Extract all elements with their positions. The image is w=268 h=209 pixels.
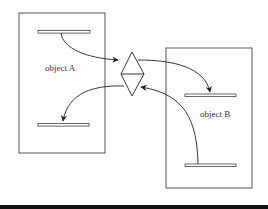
object-a-label: object A [45,63,76,73]
object-b-label: object B [200,109,230,119]
object-a[interactable]: object A [19,13,105,153]
object-b[interactable]: object B [166,48,252,188]
diamond-connector[interactable] [121,52,144,96]
object-b-bottom-slot[interactable] [185,164,236,167]
object-a-bottom-slot[interactable] [38,124,89,127]
bottom-rule [0,205,268,209]
object-b-top-slot[interactable] [185,94,236,97]
diagram-canvas: object A object B [0,0,268,209]
object-a-top-slot[interactable] [38,31,90,34]
object-a-box[interactable] [19,13,105,153]
